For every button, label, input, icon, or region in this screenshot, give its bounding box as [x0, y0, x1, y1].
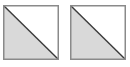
square-right [70, 5, 126, 60]
square-left [3, 5, 59, 60]
square-left-graphic [3, 5, 59, 60]
square-right-graphic [70, 5, 126, 60]
figure-canvas [0, 0, 130, 67]
